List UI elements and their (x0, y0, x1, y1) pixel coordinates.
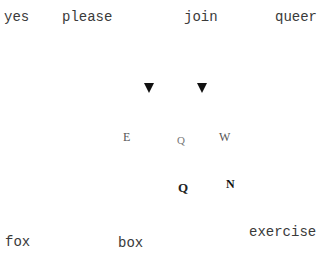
word-fox: fox (5, 235, 30, 249)
word-box: box (118, 236, 143, 250)
triangle-down-icon (197, 83, 207, 93)
glyph-w: W (219, 131, 230, 143)
glyph-e: E (123, 131, 130, 143)
triangle-down-icon (144, 83, 154, 93)
word-queer: queer (275, 10, 317, 24)
word-yes: yes (4, 10, 29, 24)
glyph-n-bold: N (226, 178, 235, 190)
word-please: please (62, 10, 112, 24)
glyph-q: Q (177, 134, 185, 146)
glyph-q-bold: Q (178, 182, 188, 194)
word-join: join (184, 10, 218, 24)
word-exercise: exercise (249, 225, 316, 239)
